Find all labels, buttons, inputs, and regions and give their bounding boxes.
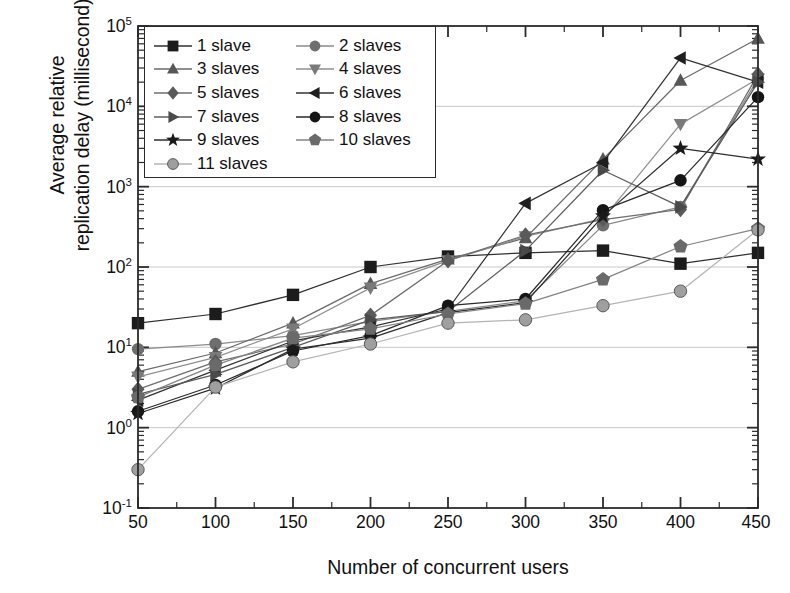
series-10-slaves: [131, 221, 765, 403]
legend-item-7-slaves[interactable]: 7 slaves: [153, 107, 295, 127]
legend-marker-circle-icon: [295, 38, 335, 54]
legend-label: 11 slaves: [197, 154, 268, 174]
legend-item-8-slaves[interactable]: 8 slaves: [295, 107, 437, 127]
legend-marker-triangle-right-icon: [153, 109, 193, 125]
legend-label: 7 slaves: [197, 107, 259, 127]
marker-triangle-left: [673, 51, 685, 65]
x-tick-200: 200: [356, 512, 385, 533]
series-line: [138, 148, 758, 413]
legend-item-5-slaves[interactable]: 5 slaves: [153, 83, 295, 103]
legend-marker-square-icon: [153, 38, 193, 54]
legend-label: 3 slaves: [197, 59, 259, 79]
marker-square: [287, 289, 299, 301]
legend-label: 10 slaves: [339, 130, 411, 150]
legend-label: 2 slaves: [339, 36, 401, 56]
legend-marker-pentagon-icon: [295, 132, 335, 148]
marker-triangle-down: [309, 65, 321, 76]
marker-circle: [310, 40, 321, 51]
legend-label: 5 slaves: [197, 83, 259, 103]
marker-circle-light: [209, 381, 221, 393]
legend-marker-triangle-left-icon: [295, 85, 335, 101]
x-tick-400: 400: [666, 512, 695, 533]
marker-pentagon: [596, 272, 610, 285]
x-tick-100: 100: [201, 512, 230, 533]
marker-circle-light: [168, 158, 179, 169]
marker-circle-light: [597, 299, 609, 311]
legend-item-4-slaves[interactable]: 4 slaves: [295, 59, 437, 79]
chart-figure: 105 104 103 102 101 100 10-1 50 100 150 …: [0, 0, 790, 593]
marker-pentagon: [309, 134, 321, 146]
x-tick-350: 350: [588, 512, 617, 533]
y-tick-1e2: 102: [60, 257, 132, 278]
legend-label: 6 slaves: [339, 83, 401, 103]
legend-label: 9 slaves: [197, 130, 259, 150]
marker-diamond: [167, 86, 178, 100]
legend-label: 8 slaves: [339, 107, 401, 127]
x-axis-label: Number of concurrent users: [138, 556, 758, 579]
x-tick-450: 450: [741, 512, 770, 533]
legend-item-9-slaves[interactable]: 9 slaves: [153, 130, 295, 150]
marker-square: [597, 244, 609, 256]
legend-item-2-slaves[interactable]: 2 slaves: [295, 36, 437, 56]
marker-circle-light: [287, 356, 299, 368]
marker-circle-light: [519, 314, 531, 326]
series-9-slaves: [130, 140, 766, 420]
y-tick-1e4: 104: [60, 96, 132, 117]
marker-circle-light: [364, 338, 376, 350]
x-tick-300: 300: [511, 512, 540, 533]
legend-item-6-slaves[interactable]: 6 slaves: [295, 83, 437, 103]
marker-circle-dark: [674, 174, 686, 186]
legend-marker-circle-light-icon: [153, 156, 193, 172]
marker-star: [166, 133, 180, 146]
y-tick-1e-1: 10-1: [56, 498, 132, 519]
legend-marker-diamond-icon: [153, 85, 193, 101]
marker-triangle-right: [168, 111, 179, 123]
marker-pentagon: [673, 239, 687, 252]
legend-label: 1 slave: [197, 36, 251, 56]
legend-marker-circle-dark-icon: [295, 109, 335, 125]
marker-pentagon: [208, 358, 222, 371]
legend-item-10-slaves[interactable]: 10 slaves: [295, 130, 437, 150]
y-tick-1e0: 100: [60, 418, 132, 439]
legend-marker-triangle-down-icon: [295, 61, 335, 77]
marker-square: [364, 261, 376, 273]
marker-triangle-up: [674, 73, 688, 85]
marker-square: [674, 257, 686, 269]
legend-item-3-slaves[interactable]: 3 slaves: [153, 59, 295, 79]
legend-item-1-slave[interactable]: 1 slave: [153, 36, 295, 56]
x-tick-150: 150: [278, 512, 307, 533]
y-tick-1e3: 103: [60, 177, 132, 198]
legend-marker-triangle-up-icon: [153, 61, 193, 77]
legend-item-11-slaves[interactable]: 11 slaves: [153, 154, 295, 174]
marker-triangle-left: [518, 197, 530, 211]
marker-square: [168, 40, 179, 51]
legend-marker-star-icon: [153, 132, 193, 148]
marker-square: [209, 308, 221, 320]
y-tick-1e5: 105: [60, 16, 132, 37]
x-tick-50: 50: [128, 512, 147, 533]
marker-triangle-up: [167, 63, 179, 74]
marker-circle-light: [442, 317, 454, 329]
y-tick-1e1: 101: [60, 337, 132, 358]
legend-label: 4 slaves: [339, 59, 401, 79]
marker-circle-light: [674, 285, 686, 297]
chart-legend: 1 slave2 slaves3 slaves4 slaves5 slaves6…: [144, 26, 436, 178]
marker-circle-dark: [310, 111, 321, 122]
marker-triangle-left: [309, 87, 320, 99]
x-tick-250: 250: [433, 512, 462, 533]
